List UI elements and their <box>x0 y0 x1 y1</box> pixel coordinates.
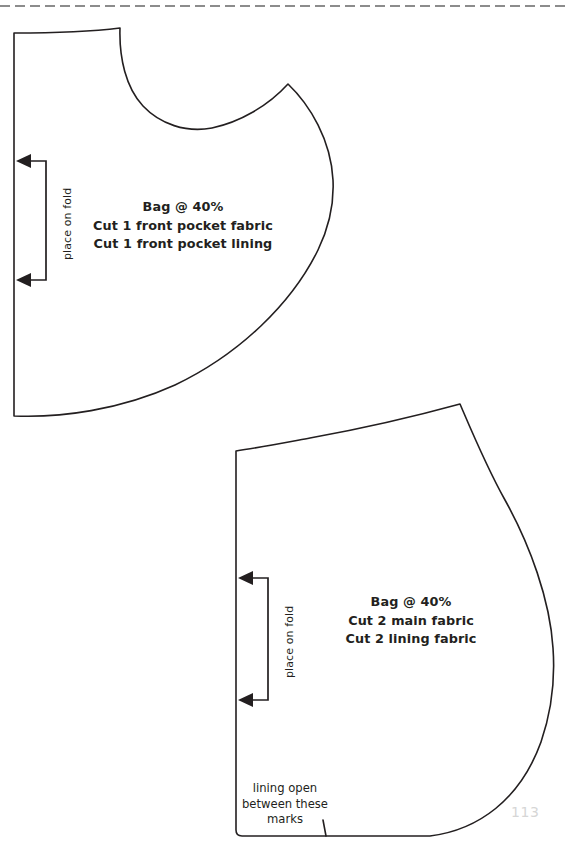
pattern-sheet-page: Bag @ 40% Cut 1 front pocket fabric Cut … <box>0 0 566 851</box>
piece-label-line: Cut 1 front pocket fabric <box>83 217 283 236</box>
fold-arrow-head-bottom-icon <box>238 693 253 707</box>
piece-label-front-pocket: Bag @ 40% Cut 1 front pocket fabric Cut … <box>83 198 283 254</box>
note-line: between these <box>225 797 345 813</box>
piece-label-line: Cut 2 main fabric <box>311 612 511 631</box>
piece-label-line: Cut 1 front pocket lining <box>83 235 283 254</box>
fold-arrow-head-top-icon <box>238 571 253 585</box>
pattern-drawing-canvas <box>0 0 566 851</box>
fold-bracket-front-pocket <box>26 161 46 280</box>
place-on-fold-label-front-pocket: place on fold <box>61 188 74 260</box>
piece-label-line: Bag @ 40% <box>311 593 511 612</box>
lining-opening-note: lining open between these marks <box>225 781 345 828</box>
piece-label-line: Cut 2 lining fabric <box>311 630 511 649</box>
place-on-fold-label-main-body: place on fold <box>283 606 296 678</box>
note-line: lining open <box>225 781 345 797</box>
fold-arrow-head-bottom-icon <box>16 273 31 287</box>
piece-label-line: Bag @ 40% <box>83 198 283 217</box>
note-line: marks <box>225 812 345 828</box>
page-number: 113 <box>511 804 540 820</box>
fold-bracket-main-body <box>248 578 268 700</box>
piece-label-main-body: Bag @ 40% Cut 2 main fabric Cut 2 lining… <box>311 593 511 649</box>
fold-arrow-head-top-icon <box>16 154 31 168</box>
